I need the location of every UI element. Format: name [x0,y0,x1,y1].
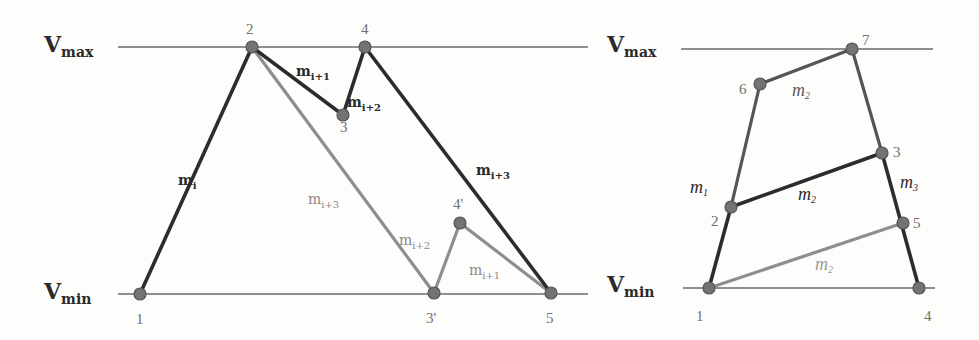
left-node-3prime-label: 3' [426,310,437,326]
right-edge-label-m2-mid: m2 [798,184,816,205]
left-diagram: Vmax Vmin 1 2 3 4 3' 4' [43,21,588,327]
right-node-2 [725,201,737,213]
right-node-7-label: 7 [862,32,870,48]
left-node-4 [359,41,371,53]
right-node-5-label: 5 [913,215,921,231]
right-node-6 [754,78,766,90]
right-node-7 [846,43,858,55]
voltage-level-diagram-figure: Vmax Vmin 1 2 3 4 3' 4' [0,0,979,340]
edge-4-to-5 [365,47,551,293]
right-edge-1-to-5 [709,223,903,288]
edge-label-m-i-plus-3: mi+3 [476,162,510,181]
left-node-1-label: 1 [136,311,144,327]
left-node-3prime [428,287,440,299]
edge-1-to-2 [140,47,252,294]
left-node-4prime-label: 4' [453,196,464,212]
left-node-5 [545,287,557,299]
left-node-3-label: 3 [340,119,348,135]
left-node-1 [134,288,146,300]
left-node-5-label: 5 [546,310,554,326]
left-vmax-label: Vmax [43,31,94,60]
edge-label-m-i-plus-2: mi+2 [347,94,381,113]
right-edge-label-m1: m1 [690,177,708,198]
right-vmax-label: Vmax [606,31,657,60]
right-node-3 [876,147,888,159]
right-node-5 [897,217,909,229]
right-edge-7-to-3 [852,49,882,153]
edge-2-to-3prime [252,47,434,293]
right-edge-2-to-6 [731,84,760,207]
left-node-2-label: 2 [246,21,254,37]
edge-label-m-i-plus-1: mi+1 [296,63,330,82]
edge-label-m-i-plus-1-reordered: mi+1 [469,262,500,281]
right-edge-6-to-7 [760,49,852,84]
right-node-3-label: 3 [893,144,901,160]
left-node-2 [246,41,258,53]
right-node-6-label: 6 [739,81,747,97]
right-node-4-label: 4 [924,308,932,324]
right-edge-label-m2-bottom: m2 [815,254,833,275]
edge-3prime-to-4prime [434,223,460,293]
right-node-4 [913,282,925,294]
right-vmin-label: Vmin [606,271,654,300]
right-node-1 [703,282,715,294]
diagram-canvas: Vmax Vmin 1 2 3 4 3' 4' [0,0,979,340]
left-vmin-label: Vmin [43,278,91,307]
right-edge-label-m3: m3 [900,172,918,193]
right-node-2-label: 2 [711,213,719,229]
edge-label-m-i-plus-3-reordered: mi+3 [308,191,339,210]
right-diagram: Vmax Vmin 1 2 3 4 5 [606,31,935,324]
left-node-4-label: 4 [361,21,369,37]
left-node-4prime [454,217,466,229]
edge-label-m-i-plus-2-reordered: mi+2 [399,232,430,251]
right-edge-label-m2-top: m2 [792,80,810,101]
right-node-1-label: 1 [696,308,704,324]
